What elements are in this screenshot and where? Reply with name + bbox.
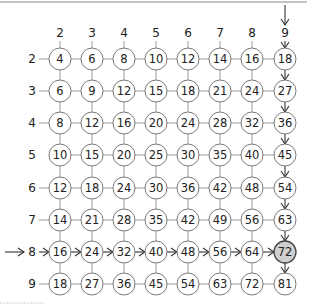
cell-value: 18 [53, 277, 68, 291]
cell-value: 45 [278, 148, 293, 162]
cell-value: 24 [245, 84, 260, 98]
column-label: 8 [248, 26, 256, 40]
column-label: 2 [56, 26, 64, 40]
cell-value: 6 [56, 84, 63, 98]
cell-value: 54 [278, 181, 293, 195]
cell-value: 16 [117, 116, 132, 130]
cell-value: 24 [117, 181, 132, 195]
cell-value: 9 [88, 84, 95, 98]
cell-value: 18 [85, 181, 100, 195]
row-label: 7 [28, 213, 36, 227]
column-label: 5 [152, 26, 160, 40]
column-label: 4 [120, 26, 128, 40]
cell-value: 27 [278, 84, 293, 98]
cell-value: 12 [117, 84, 132, 98]
cell-value: 35 [149, 213, 164, 227]
cell-value: 42 [213, 181, 228, 195]
row-label: 2 [28, 52, 36, 66]
cell-value: 64 [245, 245, 260, 259]
cell-value: 24 [181, 116, 196, 130]
cell-value: 21 [85, 213, 100, 227]
cell-value: 28 [213, 116, 228, 130]
cell-value: 40 [245, 148, 260, 162]
cell-value: 30 [149, 181, 164, 195]
cell-value: 81 [278, 277, 293, 291]
cell-value: 30 [181, 148, 196, 162]
cell-value: 72 [245, 277, 260, 291]
cell-value: 40 [149, 245, 164, 259]
cell-value: 32 [245, 116, 260, 130]
cell-value: 32 [117, 245, 132, 259]
cell-value: 8 [56, 116, 63, 130]
column-label: 7 [216, 26, 224, 40]
row-label: 8 [28, 245, 36, 259]
cell-value: 63 [278, 213, 293, 227]
row-label: 3 [28, 84, 36, 98]
cell-value: 18 [181, 84, 196, 98]
cell-value: 56 [213, 245, 228, 259]
row-label: 4 [28, 116, 36, 130]
row-label: 6 [28, 181, 36, 195]
cell-value: 27 [85, 277, 100, 291]
cell-value: 4 [56, 52, 63, 66]
cell-value: 21 [213, 84, 228, 98]
cell-value: 14 [213, 52, 228, 66]
row-label: 9 [28, 277, 36, 291]
path-arrows [5, 5, 289, 273]
cell-value: 10 [53, 148, 68, 162]
cell-value: 72 [278, 245, 293, 259]
cell-value: 15 [149, 84, 164, 98]
cell-value: 36 [181, 181, 196, 195]
column-label: 6 [184, 26, 192, 40]
cell-value: 14 [53, 213, 68, 227]
cell-value: 6 [88, 52, 95, 66]
cell-value: 8 [120, 52, 127, 66]
cell-value: 48 [245, 181, 260, 195]
cell-value: 25 [149, 148, 164, 162]
cell-value: 20 [117, 148, 132, 162]
cell-value: 10 [149, 52, 164, 66]
cell-value: 24 [85, 245, 100, 259]
cell-value: 15 [85, 148, 100, 162]
cell-value: 45 [149, 277, 164, 291]
grid-nodes: 4681012141618691215182124278121620242832… [49, 48, 296, 295]
cell-value: 12 [181, 52, 196, 66]
cell-value: 48 [181, 245, 196, 259]
row-label: 5 [28, 148, 36, 162]
cell-value: 63 [213, 277, 228, 291]
cell-value: 36 [117, 277, 132, 291]
cell-value: 49 [213, 213, 228, 227]
cell-value: 16 [53, 245, 68, 259]
cell-value: 56 [245, 213, 260, 227]
cell-value: 36 [278, 116, 293, 130]
cell-value: 28 [117, 213, 132, 227]
cell-value: 35 [213, 148, 228, 162]
column-label: 3 [88, 26, 96, 40]
cell-value: 54 [181, 277, 196, 291]
cell-value: 20 [149, 116, 164, 130]
column-label: 9 [281, 26, 289, 40]
cell-value: 16 [245, 52, 260, 66]
cell-value: 12 [85, 116, 100, 130]
cell-value: 18 [278, 52, 293, 66]
cell-value: 12 [53, 181, 68, 195]
cell-value: 42 [181, 213, 196, 227]
multiplication-grid-diagram: 4681012141618691215182124278121620242832… [0, 0, 313, 306]
